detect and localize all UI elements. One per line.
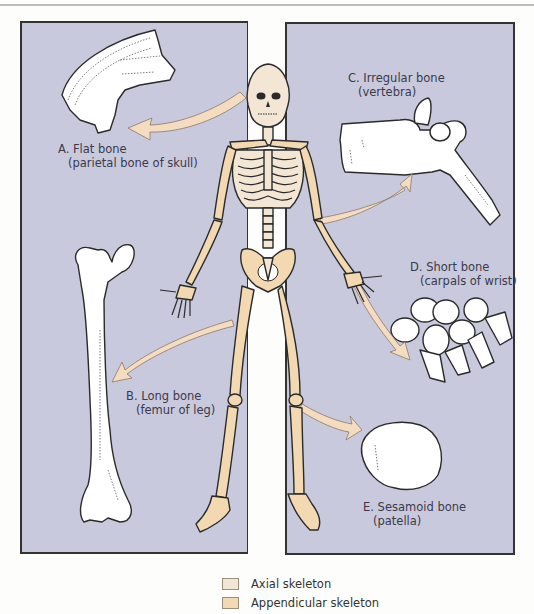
appendicular-swatch-icon <box>222 597 239 609</box>
label-flat-bone-example: (parietal bone of skull) <box>58 156 198 170</box>
label-long-bone-title: B. Long bone <box>126 389 201 403</box>
legend-label-axial: Axial skeleton <box>251 577 331 591</box>
label-irregular-bone: C. Irregular bone (vertebra) <box>348 71 445 99</box>
label-long-bone-example: (femur of leg) <box>126 403 215 417</box>
arrow-to-sesamoid-bone <box>299 404 362 440</box>
label-irregular-bone-example: (vertebra) <box>348 85 445 99</box>
label-flat-bone: A. Flat bone (parietal bone of skull) <box>58 142 198 170</box>
arrow-to-long-bone <box>112 320 234 382</box>
long-bone-femur-icon <box>76 245 135 522</box>
label-sesamoid-bone: E. Sesamoid bone (patella) <box>363 500 466 528</box>
label-short-bone-example: (carpals of wrist) <box>410 274 517 288</box>
label-short-bone-title: D. Short bone <box>410 260 489 274</box>
legend-label-appendicular: Appendicular skeleton <box>251 596 379 610</box>
flat-bone-parietal-icon <box>62 30 175 133</box>
legend: Axial skeleton Appendicular skeleton <box>222 574 379 612</box>
label-long-bone: B. Long bone (femur of leg) <box>126 389 215 417</box>
label-irregular-bone-title: C. Irregular bone <box>348 71 445 85</box>
arrow-to-flat-bone <box>128 92 246 140</box>
label-short-bone: D. Short bone (carpals of wrist) <box>410 260 517 288</box>
label-sesamoid-bone-example: (patella) <box>363 514 466 528</box>
sesamoid-bone-patella-icon <box>361 422 441 489</box>
irregular-bone-vertebra-icon <box>340 98 500 225</box>
legend-item-axial: Axial skeleton <box>222 574 379 593</box>
arrow-to-irregular-bone <box>320 174 412 224</box>
short-bone-carpals-icon <box>391 298 512 382</box>
label-flat-bone-title: A. Flat bone <box>58 142 127 156</box>
label-sesamoid-bone-title: E. Sesamoid bone <box>363 500 466 514</box>
legend-item-appendicular: Appendicular skeleton <box>222 593 379 612</box>
axial-swatch-icon <box>222 578 239 590</box>
